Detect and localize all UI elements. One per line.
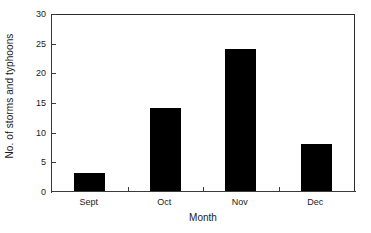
y-tick-mark-15 xyxy=(52,103,56,104)
bar-dec xyxy=(301,144,332,191)
y-tick-mark-10 xyxy=(52,133,56,134)
bar-oct xyxy=(150,108,181,191)
x-tick-mark-3 xyxy=(279,187,280,191)
y-tick-mark-25 xyxy=(52,44,56,45)
y-tick-mark-30 xyxy=(52,14,56,15)
bar-sept xyxy=(74,173,105,191)
y-tick-label-15: 15 xyxy=(24,99,46,108)
x-tick-mark-2 xyxy=(203,187,204,191)
x-axis-tick-labels: SeptOctNovDec xyxy=(51,195,355,209)
bar-nov xyxy=(225,49,256,191)
y-tick-label-20: 20 xyxy=(24,69,46,78)
y-tick-label-25: 25 xyxy=(24,39,46,48)
y-tick-label-10: 10 xyxy=(24,128,46,137)
x-tick-mark-1 xyxy=(128,187,129,191)
y-axis-title: No. of storms and typhoons xyxy=(2,0,16,192)
y-tick-label-5: 5 xyxy=(24,158,46,167)
x-tick-label-nov: Nov xyxy=(232,195,248,209)
y-tick-mark-5 xyxy=(52,162,56,163)
plot-area xyxy=(51,14,355,192)
x-tick-label-dec: Dec xyxy=(307,195,323,209)
x-tick-label-sept: Sept xyxy=(79,195,98,209)
x-axis-title: Month xyxy=(51,212,355,223)
y-tick-label-30: 30 xyxy=(24,10,46,19)
x-tick-label-oct: Oct xyxy=(157,195,171,209)
bar-chart-figure: No. of storms and typhoons 051015202530 … xyxy=(0,0,371,233)
y-tick-label-0: 0 xyxy=(24,188,46,197)
y-tick-mark-20 xyxy=(52,73,56,74)
y-axis-tick-labels: 051015202530 xyxy=(24,0,46,233)
